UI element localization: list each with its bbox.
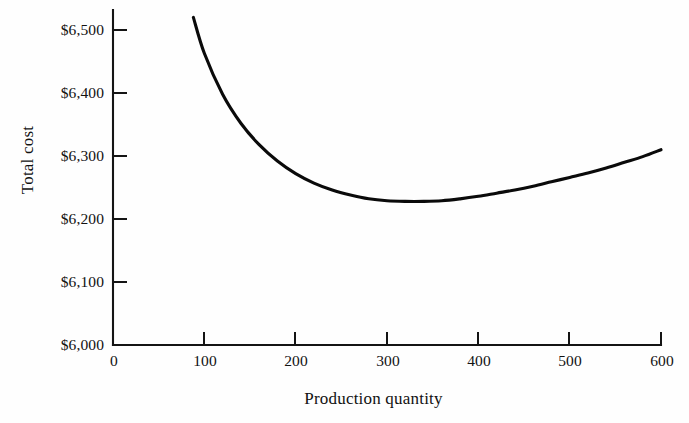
x-tick-label-200: 200 <box>284 352 308 370</box>
y-axis-title: Total cost <box>18 70 38 250</box>
x-tick-label-100: 100 <box>193 352 217 370</box>
x-tick-label-600: 600 <box>650 352 674 370</box>
chart-container: $6,500 $6,400 $6,300 $6,200 $6,100 $6,00… <box>0 0 689 423</box>
x-tick-label-group: 0 100 200 300 400 500 600 <box>0 0 689 423</box>
x-axis-title: Production quantity <box>0 389 689 409</box>
x-tick-label-0: 0 <box>110 352 118 370</box>
x-tick-label-400: 400 <box>467 352 491 370</box>
x-tick-label-500: 500 <box>558 352 582 370</box>
x-axis-title-text: Production quantity <box>304 389 442 409</box>
x-tick-label-300: 300 <box>376 352 400 370</box>
